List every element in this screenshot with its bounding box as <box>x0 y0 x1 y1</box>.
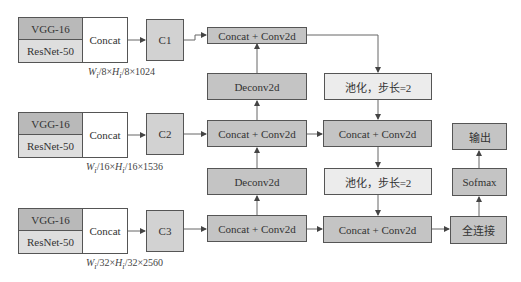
resnet50-block: ResNet-50 <box>19 231 83 253</box>
feature-c1: C1 <box>146 19 184 61</box>
feature-c3: C3 <box>146 210 184 252</box>
deconv-1: Deconv2d <box>207 73 307 100</box>
output-block: 输出 <box>452 123 507 150</box>
resnet50-block: ResNet-50 <box>19 135 83 157</box>
concat-block: Concat <box>83 18 127 62</box>
feature-dims-3: Wi/32×Hi/32×2560 <box>86 257 163 271</box>
topdown-fuse-1: Concat + Conv2d <box>207 27 307 44</box>
concat-block: Concat <box>83 113 127 157</box>
topdown-fuse-3: Concat + Conv2d <box>207 215 307 242</box>
feature-c2: C2 <box>146 113 184 155</box>
vgg16-block: VGG-16 <box>19 18 83 40</box>
bottomup-fuse-2: Concat + Conv2d <box>323 120 432 147</box>
softmax-block: Sofmax <box>452 168 507 196</box>
resnet50-block: ResNet-50 <box>19 40 83 62</box>
deconv-2: Deconv2d <box>207 168 307 195</box>
concat-block: Concat <box>83 209 127 253</box>
backbone-block-3: VGG-16 ResNet-50 Concat <box>18 208 128 254</box>
feature-dims-1: Wi/8×Hi/8×1024 <box>88 66 155 80</box>
vgg16-block: VGG-16 <box>19 209 83 231</box>
topdown-fuse-2: Concat + Conv2d <box>207 120 307 147</box>
backbone-block-1: VGG-16 ResNet-50 Concat <box>18 17 128 63</box>
fully-connected-block: 全连接 <box>450 216 507 244</box>
backbone-block-2: VGG-16 ResNet-50 Concat <box>18 112 128 158</box>
bottomup-fuse-3: Concat + Conv2d <box>323 216 432 243</box>
pooling-2: 池化，步长=2 <box>324 168 432 195</box>
pooling-1: 池化，步长=2 <box>324 73 432 100</box>
feature-dims-2: Wi/16×Hi/16×1536 <box>86 161 163 175</box>
vgg16-block: VGG-16 <box>19 113 83 135</box>
